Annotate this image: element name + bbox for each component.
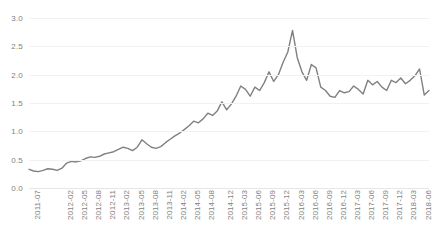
y-axis-tick-label: 2.5 xyxy=(11,42,23,51)
x-axis-tick-label: 2015-06 xyxy=(254,190,263,220)
x-axis-tick-label: 2014-08 xyxy=(207,190,216,220)
x-axis-tick-label: 2013-08 xyxy=(151,190,160,220)
x-axis-tick-label: 2017-06 xyxy=(367,190,376,220)
x-axis-tick-label: 2013-02 xyxy=(122,190,131,220)
x-axis-tick-label: 2015-09 xyxy=(268,190,277,220)
gridline xyxy=(29,160,429,161)
gridline xyxy=(29,18,429,19)
y-axis-tick-label: 0.5 xyxy=(11,155,23,164)
x-axis-tick-label: 2016-03 xyxy=(297,190,306,220)
y-axis-tick-label: 2.0 xyxy=(11,70,23,79)
x-axis-tick-label: 2016-09 xyxy=(325,190,334,220)
x-axis-tick-label: 2012-08 xyxy=(94,190,103,220)
x-axis-tick-label: 2015-03 xyxy=(240,190,249,220)
x-axis-tick-label: 2015-12 xyxy=(282,190,291,220)
x-axis-tick-label: 2014-02 xyxy=(179,190,188,220)
x-axis-tick-label: 2014-12 xyxy=(226,190,235,220)
x-axis-tick-label: 2017-03 xyxy=(353,190,362,220)
line-chart: 0.00.51.01.52.02.53.0 2011-072012-022012… xyxy=(0,0,436,250)
gridline xyxy=(29,131,429,132)
y-axis-tick-label: 3.0 xyxy=(11,14,23,23)
gridline xyxy=(29,188,429,189)
plot-area xyxy=(29,18,429,188)
x-axis-tick-label: 2012-05 xyxy=(80,190,89,220)
series-path xyxy=(29,30,429,171)
x-axis-tick-label: 2017-12 xyxy=(395,190,404,220)
x-axis-tick-label: 2012-02 xyxy=(66,190,75,220)
x-axis-tick-label: 2017-09 xyxy=(381,190,390,220)
y-axis: 0.00.51.01.52.02.53.0 xyxy=(0,18,27,188)
x-axis: 2011-072012-022012-052012-082012-112013-… xyxy=(29,190,429,248)
x-axis-tick-label: 2016-06 xyxy=(311,190,320,220)
x-axis-tick-label: 2011-07 xyxy=(33,190,42,219)
y-axis-tick-label: 1.0 xyxy=(11,127,23,136)
x-axis-tick-label: 2018-06 xyxy=(424,190,433,220)
x-axis-tick-label: 2012-11 xyxy=(108,190,117,219)
x-axis-tick-label: 2013-11 xyxy=(165,190,174,219)
x-axis-tick-label: 2013-05 xyxy=(137,190,146,220)
x-axis-tick-label: 2016-12 xyxy=(339,190,348,220)
x-axis-tick-label: 2014-05 xyxy=(193,190,202,220)
y-axis-tick-label: 0.0 xyxy=(11,184,23,193)
gridline xyxy=(29,46,429,47)
gridline xyxy=(29,75,429,76)
y-axis-tick-label: 1.5 xyxy=(11,99,23,108)
gridline xyxy=(29,103,429,104)
x-axis-tick-label: 2018-03 xyxy=(409,190,418,220)
